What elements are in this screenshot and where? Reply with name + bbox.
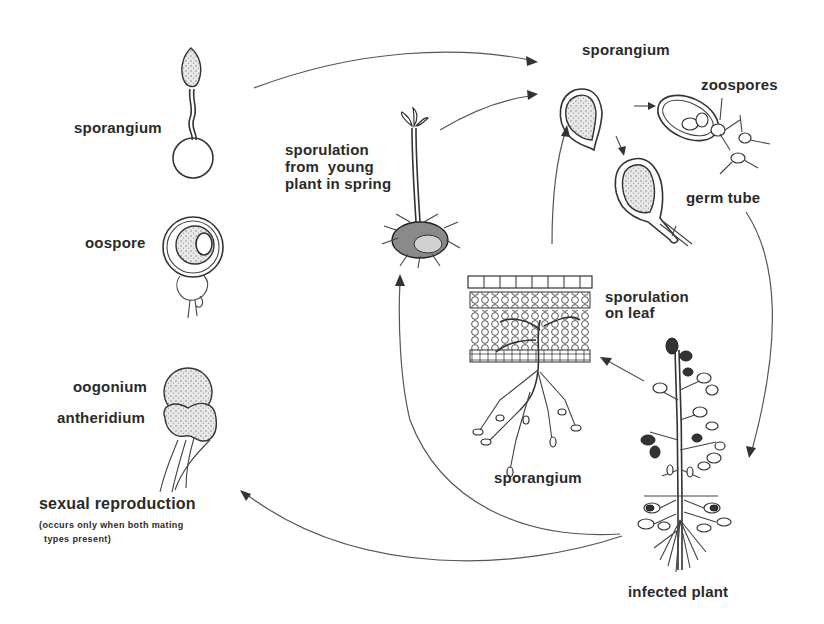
germinating-sporangium-germ-tube-drawing	[615, 158, 692, 246]
label-oospore: oospore	[85, 235, 146, 251]
infected-plant-drawing	[638, 338, 731, 572]
label-zoospores: zoospores	[701, 77, 778, 93]
label-antheridium: antheridium	[57, 410, 145, 426]
arrow-germ-tube-to-infected-plant	[746, 212, 772, 450]
arrow-young-plant-to-sporangium	[440, 96, 530, 130]
small-arrows	[616, 102, 656, 156]
label-sporangium-top: sporangium	[582, 42, 670, 58]
label-sporangium-bottom: sporangium	[494, 470, 582, 486]
label-infected-plant: infected plant	[628, 584, 728, 600]
oogonium-antheridium-drawing	[160, 368, 216, 492]
arrow-leaf-to-sporangium	[552, 130, 566, 244]
leaf-cross-section-drawing	[468, 276, 592, 477]
arrow-infected-plant-to-leaf	[606, 360, 644, 381]
label-sexual-note-line1: (occurs only when both mating	[39, 519, 184, 531]
sporangium-releasing-zoospores-drawing	[651, 86, 770, 174]
label-sexual-note-line2: types present)	[44, 533, 111, 545]
label-sexual-reproduction: sexual reproduction	[39, 496, 196, 512]
arrow-infected-plant-to-sexual-reproduction	[246, 494, 622, 561]
young-plant-tuber-drawing	[382, 108, 460, 268]
label-sporulation-young-plant: sporulation from young plant in spring	[285, 141, 391, 192]
label-oogonium: oogonium	[73, 379, 147, 395]
sporangium-top-drawing	[560, 89, 602, 150]
germinating-oospore-sporangium-drawing	[173, 48, 213, 178]
label-germ-tube: germ tube	[686, 190, 760, 206]
arrow-oospore-to-sporangium	[254, 52, 530, 88]
oospore-drawing	[163, 217, 223, 318]
label-sporangium-left: sporangium	[74, 120, 162, 136]
label-sporulation-on-leaf: sporulation on leaf	[605, 289, 689, 321]
